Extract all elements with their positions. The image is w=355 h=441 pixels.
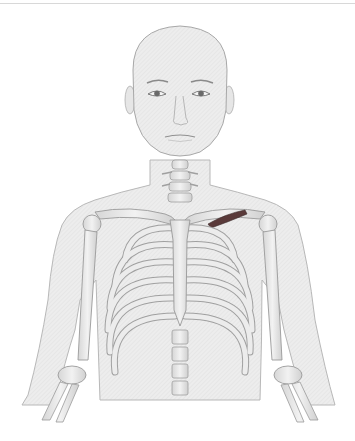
- anatomy-illustration: [0, 0, 355, 441]
- right-elbow: [274, 366, 302, 384]
- left-elbow: [58, 366, 86, 384]
- head: [125, 26, 234, 156]
